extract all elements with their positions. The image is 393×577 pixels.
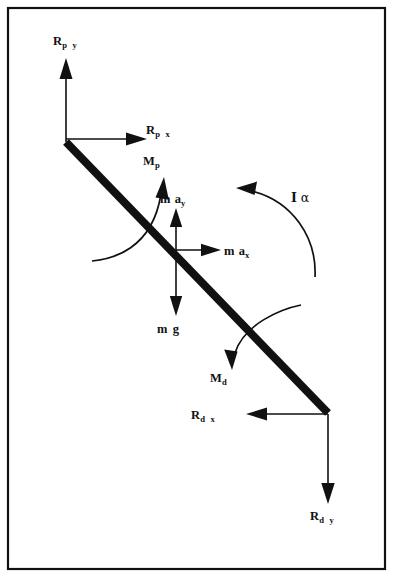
- arrow-head-right-icon: [201, 244, 221, 256]
- vector-proximal-reaction-x: Rp x: [66, 123, 171, 146]
- label-inertial-force-x: max: [224, 244, 250, 260]
- label-distal-reaction-x: Rd x: [191, 408, 216, 424]
- vector-weight-force: mg: [157, 252, 182, 336]
- label-weight-force: mg: [157, 322, 180, 336]
- arrow-head-curve-left-icon: [236, 182, 257, 195]
- vector-proximal-reaction-y: Rp y: [53, 34, 78, 142]
- arrow-head-right-icon: [126, 133, 147, 146]
- vector-distal-reaction-x: Rd x: [191, 408, 328, 425]
- label-distal-moment: Md: [210, 371, 227, 387]
- label-inertial-force-y: may: [160, 192, 186, 208]
- vector-distal-reaction-y: Rd y: [310, 414, 335, 525]
- arrow-head-up-icon: [60, 58, 73, 79]
- rigid-bar: [66, 142, 328, 413]
- label-proximal-reaction-x: Rp x: [146, 123, 171, 139]
- arrow-head-down-icon: [321, 483, 334, 504]
- label-distal-reaction-y: Rd y: [310, 509, 335, 525]
- arrow-head-left-icon: [246, 408, 267, 421]
- vector-inertial-moment: Iα: [236, 182, 315, 277]
- label-inertial-moment: Iα: [291, 190, 310, 205]
- diagram-canvas: Rp y Rp x Mp may: [0, 0, 393, 577]
- arrow-head-up-icon: [170, 208, 182, 227]
- arrow-head-down-icon: [170, 296, 182, 316]
- label-proximal-reaction-y: Rp y: [53, 34, 78, 50]
- vector-inertial-force-x: max: [176, 244, 250, 260]
- free-body-diagram: Rp y Rp x Mp may: [0, 0, 393, 577]
- arrow-head-curve-down-icon: [224, 350, 237, 371]
- label-proximal-moment: Mp: [143, 154, 160, 170]
